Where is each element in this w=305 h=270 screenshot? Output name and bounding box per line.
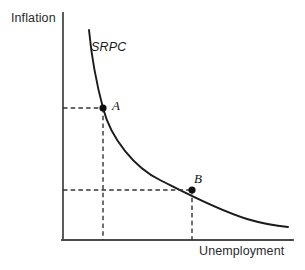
phillips-curve-figure: Inflation Unemployment SRPC A B [0,0,305,270]
srpc-curve [89,30,288,227]
x-axis-label: Unemployment [199,245,284,258]
point-b-label: B [194,172,202,185]
srpc-curve-label: SRPC [91,41,127,54]
point-b-marker [188,186,195,193]
y-axis-label: Inflation [11,12,56,25]
plot-canvas [0,0,305,270]
point-a-label: A [112,99,120,112]
point-a-marker [99,104,106,111]
